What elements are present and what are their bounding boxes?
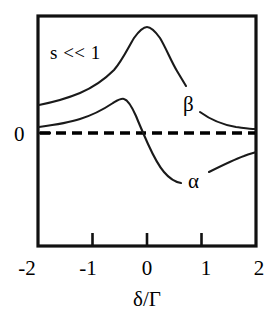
- x-tick-label-minus1: -1: [79, 256, 97, 280]
- beta-curve-right: [200, 112, 255, 129]
- beta-curve-left: [39, 27, 186, 105]
- beta-curve-label: β: [183, 92, 194, 116]
- x-tick-label-zero: 0: [142, 256, 153, 280]
- alpha-curve-label: α: [188, 169, 199, 193]
- y-axis-zero-label: 0: [14, 122, 25, 146]
- x-tick-label-plus2: 2: [254, 256, 265, 280]
- x-axis-title: δ/Γ: [133, 287, 161, 311]
- regime-annotation: s << 1: [50, 42, 101, 63]
- alpha-curve-right: [209, 152, 256, 172]
- alpha-curve-left: [39, 99, 181, 183]
- figure-container: s << 1 β α 0 -2 -1 0 1 2 δ/Γ: [0, 0, 278, 320]
- x-tick-label-plus1: 1: [201, 256, 212, 280]
- x-tick-label-minus2: -2: [18, 256, 36, 280]
- lineshape-plot: s << 1 β α 0 -2 -1 0 1 2 δ/Γ: [0, 0, 278, 320]
